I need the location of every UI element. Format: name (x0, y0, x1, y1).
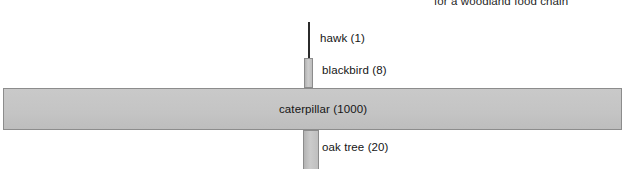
bar-hawk (308, 22, 310, 58)
bar-blackbird (304, 58, 313, 88)
diagram-title-fragment: for a woodland food chain (434, 0, 568, 7)
bar-label-caterpillar: caterpillar (1000) (279, 103, 367, 115)
bar-label-hawk: hawk (1) (320, 32, 365, 44)
bar-label-blackbird: blackbird (8) (322, 64, 387, 76)
bar-label-oak-tree: oak tree (20) (322, 141, 389, 153)
pyramid-of-numbers-diagram: for a woodland food chain hawk (1) black… (0, 0, 629, 169)
bar-oak-tree (303, 130, 319, 169)
